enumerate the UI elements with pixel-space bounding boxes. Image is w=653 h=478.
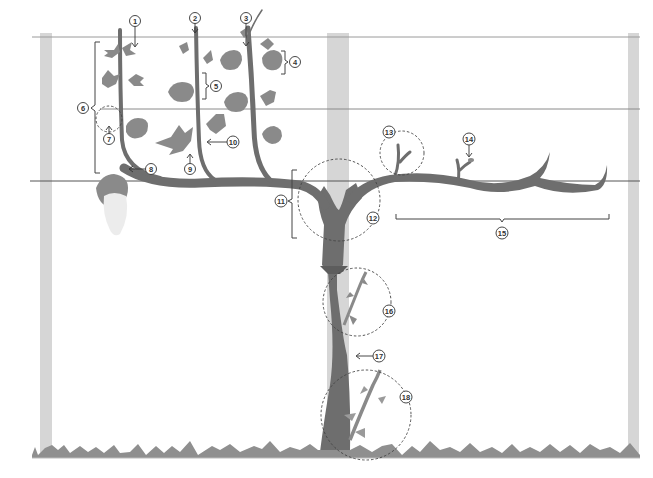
leaf: [224, 92, 248, 112]
sucker-leaf: [346, 279, 368, 325]
callout-15: 15: [496, 227, 508, 239]
svg-text:6: 6: [81, 104, 85, 113]
svg-text:15: 15: [498, 229, 506, 238]
leaf: [126, 118, 148, 138]
leaf: [262, 126, 282, 144]
leaf: [128, 74, 144, 86]
leader-17: [356, 353, 373, 359]
sucker-leaf: [344, 386, 386, 438]
leaf: [102, 70, 120, 88]
bracket-15: [396, 214, 609, 222]
callout-8: 8: [146, 164, 157, 175]
callout-9: 9: [185, 164, 196, 175]
leaf: [104, 44, 120, 58]
leader-7: [106, 126, 112, 134]
bracket-6: [91, 42, 100, 173]
svg-text:14: 14: [465, 135, 474, 144]
bracket-4: [281, 51, 288, 74]
leaf: [220, 50, 242, 70]
cordon-right: [345, 152, 607, 205]
leader-14: [466, 144, 472, 157]
callout-10: 10: [227, 136, 239, 148]
svg-text:3: 3: [244, 14, 248, 23]
callout-2: 2: [190, 13, 201, 24]
bud-14: [468, 158, 474, 162]
callout-16: 16: [383, 305, 395, 317]
shoot-middle: [196, 28, 215, 180]
svg-text:16: 16: [385, 307, 393, 316]
grape-cluster: [104, 193, 128, 235]
leader-10: [207, 139, 227, 145]
svg-text:5: 5: [214, 82, 218, 91]
leaf: [203, 50, 213, 64]
svg-text:17: 17: [375, 352, 383, 361]
callout-1: 1: [130, 16, 141, 27]
post-right: [628, 33, 639, 453]
post-left: [40, 33, 52, 453]
leaf: [262, 50, 282, 70]
callout-14: 14: [463, 133, 475, 145]
shoots: [120, 10, 270, 180]
leaf: [155, 125, 193, 155]
callouts: 1 2 3 4 5 6 7 8 9 10 11 12 13 14 15 16 1…: [78, 13, 509, 404]
tendril-top: [250, 10, 262, 32]
svg-text:7: 7: [107, 135, 111, 144]
callout-11: 11: [275, 195, 287, 207]
spur-13: [395, 145, 410, 176]
svg-text:10: 10: [229, 138, 237, 147]
svg-text:11: 11: [277, 197, 285, 206]
callout-12: 12: [367, 212, 379, 224]
trunk: [318, 183, 362, 452]
svg-text:13: 13: [385, 128, 393, 137]
leaf: [206, 114, 226, 134]
svg-text:1: 1: [133, 17, 137, 26]
svg-text:18: 18: [402, 393, 410, 402]
callout-4: 4: [290, 57, 301, 68]
svg-text:8: 8: [149, 165, 153, 174]
callout-3: 3: [241, 13, 252, 24]
callout-5: 5: [211, 81, 222, 92]
callout-6: 6: [78, 103, 89, 114]
callout-13: 13: [383, 126, 395, 138]
callout-17: 17: [373, 350, 385, 362]
bracket-5: [202, 73, 209, 99]
leader-lines: [106, 23, 472, 359]
callout-7: 7: [104, 134, 115, 145]
leaf: [179, 42, 189, 54]
leaf: [260, 90, 276, 106]
grapevine-diagram: 1 2 3 4 5 6 7 8 9 10 11 12 13 14 15 16 1…: [0, 0, 653, 478]
svg-text:12: 12: [369, 214, 377, 223]
leader-9: [187, 154, 193, 164]
leaf: [260, 38, 274, 50]
svg-text:2: 2: [193, 14, 197, 23]
leaf: [168, 82, 194, 102]
leaf: [122, 42, 136, 56]
callout-18: 18: [400, 391, 412, 403]
svg-text:9: 9: [188, 165, 192, 174]
